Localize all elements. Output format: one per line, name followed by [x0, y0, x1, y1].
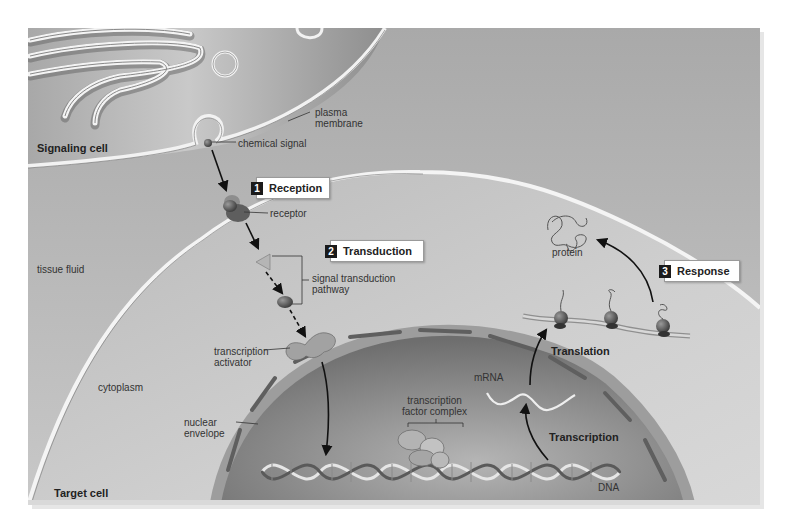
step-label: Transduction: [343, 245, 412, 257]
protein-label: protein: [552, 247, 583, 258]
step-number-badge: 1: [251, 182, 263, 195]
nuclear-envelope-label: nuclear envelope: [184, 417, 225, 439]
chemical-signal-label: chemical signal: [238, 138, 306, 149]
signal-transduction-pathway-label: signal transduction pathway: [312, 273, 395, 295]
dna-label: DNA: [598, 482, 619, 493]
mrna-label: mRNA: [474, 372, 503, 383]
receptor-label: receptor: [270, 208, 307, 219]
tissue-fluid-label: tissue fluid: [37, 264, 84, 275]
transcription-label: Transcription: [549, 432, 619, 443]
transcription-activator-label: transcription activator: [214, 346, 268, 368]
plasma-membrane-label: plasma membrane: [315, 107, 363, 129]
signaling-cell-label: Signaling cell: [37, 143, 108, 154]
chemical-signal-shape: [204, 139, 212, 147]
step-number-badge: 2: [325, 245, 337, 258]
step-label: Reception: [269, 182, 322, 194]
translation-label: Translation: [551, 346, 610, 357]
cell-signaling-diagram: Signaling cell Target cell tissue fluid …: [0, 0, 786, 530]
target-cell-label: Target cell: [54, 488, 108, 499]
step-transduction-box: 2 Transduction: [330, 240, 424, 262]
cytoplasm-label: cytoplasm: [98, 382, 143, 393]
step-reception-box: 1 Reception: [256, 177, 330, 199]
step-label: Response: [677, 265, 730, 277]
transcription-factor-complex-label: transcription factor complex: [402, 395, 467, 417]
relay-protein-ball: [277, 296, 293, 308]
step-number-badge: 3: [659, 265, 671, 278]
step-response-box: 3 Response: [664, 260, 740, 282]
